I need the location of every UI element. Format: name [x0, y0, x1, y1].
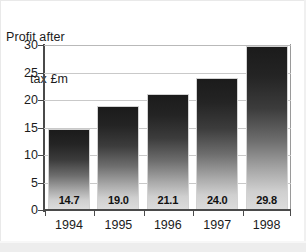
bar-chart-figure: Profit after tax £m 051015202530 14.719.… [0, 0, 306, 252]
bar: 29.8 [246, 46, 288, 210]
y-axis-tick-label: 5 [12, 177, 38, 189]
x-axis-tick [45, 211, 46, 216]
x-axis-tick [94, 211, 95, 216]
x-axis-line [43, 209, 291, 211]
frame-bottom-edge [0, 243, 306, 252]
x-axis-tick-label: 1995 [92, 218, 144, 232]
y-axis-tick-label: 10 [12, 149, 38, 161]
frame-top-edge [0, 0, 306, 1]
y-axis-tick-label: 20 [12, 94, 38, 106]
bar: 21.1 [147, 94, 189, 210]
bar: 19.0 [97, 106, 139, 211]
bar-value-label: 14.7 [49, 194, 89, 206]
bar: 14.7 [48, 129, 90, 210]
x-axis-tick-label: 1994 [43, 218, 95, 232]
bar-value-label: 29.8 [247, 194, 287, 206]
plot-area: 14.719.021.124.029.8 [44, 45, 291, 210]
y-axis-tick-label: 15 [12, 122, 38, 134]
x-axis-tick-label: 1998 [241, 218, 293, 232]
x-axis-tick-label: 1996 [142, 218, 194, 232]
bar: 24.0 [196, 78, 238, 210]
bar-value-label: 24.0 [197, 194, 237, 206]
bar-value-label: 21.1 [148, 194, 188, 206]
frame-right-edge [304, 0, 306, 252]
x-axis-tick [290, 211, 291, 216]
x-axis-tick-label: 1997 [191, 218, 243, 232]
y-axis-tick-label: 0 [12, 204, 38, 216]
x-axis-tick [193, 211, 194, 216]
y-axis-tick-label: 30 [12, 39, 38, 51]
frame-left-edge [0, 0, 1, 252]
y-axis-tick-label: 25 [12, 67, 38, 79]
x-axis-tick [144, 211, 145, 216]
x-axis-tick [243, 211, 244, 216]
bar-value-label: 19.0 [98, 194, 138, 206]
